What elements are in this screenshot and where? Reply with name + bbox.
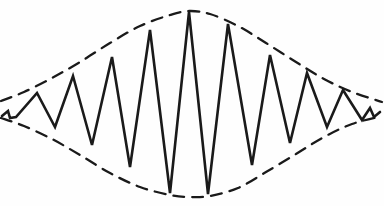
waveform-figure bbox=[0, 0, 384, 206]
figure-canvas: Hand-drawn line figure: a high-frequency… bbox=[0, 0, 384, 206]
